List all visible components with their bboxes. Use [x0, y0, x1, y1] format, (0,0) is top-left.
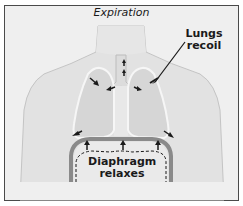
- diaphragm-label-line2: relaxes: [88, 168, 156, 180]
- diaphragm-label: Diaphragm relaxes: [88, 156, 156, 180]
- lungs-label-line2: recoil: [178, 40, 230, 52]
- lungs-label: Lungs recoil: [178, 28, 230, 52]
- diagram-title: Expiration: [0, 6, 243, 19]
